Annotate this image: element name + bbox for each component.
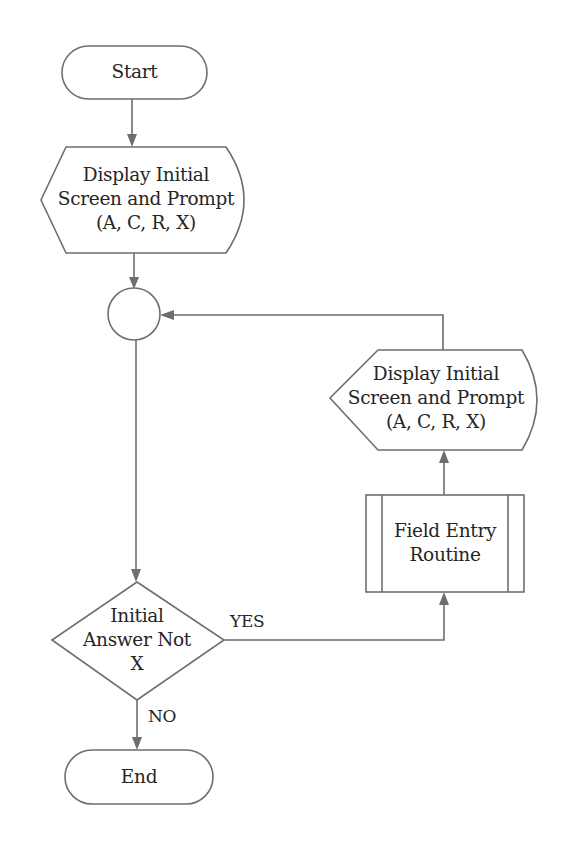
display1-line-3: (A, C, R, X) — [46, 211, 246, 235]
display1-line-2: Screen and Prompt — [46, 187, 246, 211]
field-entry-line-2: Routine — [382, 543, 508, 567]
display2-label: Display Initial Screen and Prompt (A, C,… — [336, 362, 536, 434]
arrowhead-icon — [160, 310, 174, 320]
decision-line-3: X — [62, 652, 212, 676]
decision-line-1: Initial — [62, 604, 212, 628]
arrowhead-icon — [439, 592, 449, 605]
arrowhead-icon — [127, 134, 137, 147]
arrowhead-icon — [132, 737, 142, 750]
end-label: End — [65, 765, 213, 789]
arrowhead-icon — [131, 569, 141, 582]
no-label: NO — [148, 706, 176, 726]
start-label: Start — [62, 60, 207, 84]
display2-line-1: Display Initial — [336, 362, 536, 386]
decision-label: Initial Answer Not X — [62, 604, 212, 676]
display1-label: Display Initial Screen and Prompt (A, C,… — [46, 163, 246, 235]
yes-label: YES — [230, 611, 264, 631]
display2-line-2: Screen and Prompt — [336, 386, 536, 410]
field-entry-label: Field Entry Routine — [382, 519, 508, 567]
edge-display2-to-connector — [172, 315, 443, 350]
field-entry-line-1: Field Entry — [382, 519, 508, 543]
display2-line-3: (A, C, R, X) — [336, 410, 536, 434]
decision-line-2: Answer Not — [62, 628, 212, 652]
display1-line-1: Display Initial — [46, 163, 246, 187]
arrowhead-icon — [439, 450, 449, 463]
connector-circle — [108, 288, 160, 340]
